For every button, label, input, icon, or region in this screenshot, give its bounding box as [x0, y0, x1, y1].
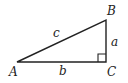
vertex-label-c-upper: C	[107, 65, 116, 79]
triangle-shape	[17, 20, 106, 62]
right-angle-marker	[98, 54, 106, 62]
side-label-b: b	[59, 64, 67, 78]
right-triangle-diagram: A B C a b c	[0, 0, 128, 83]
vertex-label-a-upper: A	[8, 65, 18, 79]
side-label-c: c	[53, 26, 60, 40]
side-label-a: a	[111, 35, 118, 49]
vertex-label-b-upper: B	[106, 4, 116, 18]
